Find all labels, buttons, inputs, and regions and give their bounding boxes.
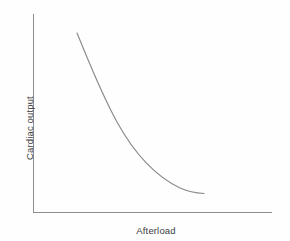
x-axis-title: Afterload [0,225,290,236]
cardiac-output-curve [77,33,204,194]
figure-container: Cardiac output Afterload [0,0,290,241]
plot-area [0,0,290,241]
y-axis-title: Cardiac output [24,96,35,160]
